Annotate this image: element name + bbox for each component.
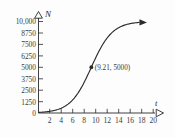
y-axis: N	[35, 9, 52, 113]
chart-canvas: N 10,000 8750 7500 6250 5000 3750 2500 1…	[0, 0, 175, 137]
y-axis-ticks	[39, 22, 44, 102]
x-tick-label: 6	[71, 116, 75, 125]
y-tick-label: 1250	[21, 98, 36, 107]
x-tick-label: 8	[82, 116, 86, 125]
x-tick-label: 16	[126, 116, 134, 125]
y-tick-label: 6250	[21, 52, 36, 61]
x-tick-label: 10	[92, 116, 100, 125]
curve-end-arrow-icon	[139, 19, 147, 25]
x-tick-label: 18	[138, 116, 146, 125]
x-axis: t	[39, 98, 164, 117]
x-tick-label: 12	[103, 116, 111, 125]
x-axis-ticks	[50, 109, 154, 113]
x-tick-label: 4	[59, 116, 63, 125]
y-axis-tick-labels: 10,000 8750 7500 6250 5000 3750 2500 125…	[16, 17, 37, 117]
y-tick-label: 8750	[21, 29, 36, 38]
y-axis-label: N	[44, 9, 52, 19]
y-tick-label: 7500	[21, 40, 36, 49]
y-tick-label: 5000	[21, 63, 36, 72]
inflection-point-label: (9.21, 5000)	[95, 64, 131, 72]
logistic-growth-chart: N 10,000 8750 7500 6250 5000 3750 2500 1…	[0, 0, 175, 137]
x-axis-tick-labels: 2 4 6 8 10 12 14 16 18 20	[48, 116, 157, 125]
y-tick-label-zero: 0	[32, 109, 36, 118]
x-tick-label: 20	[149, 116, 157, 125]
x-tick-label: 14	[115, 116, 123, 125]
logistic-curve-series	[39, 19, 147, 112]
y-tick-label: 3750	[21, 75, 36, 84]
x-tick-label: 2	[48, 116, 52, 125]
inflection-annotation: (9.21, 5000)	[89, 64, 130, 72]
y-tick-label: 10,000	[16, 17, 37, 26]
y-tick-label: 2500	[21, 86, 36, 95]
inflection-point-marker	[89, 65, 93, 69]
x-axis-arrowhead-icon	[156, 109, 163, 117]
x-axis-label: t	[155, 98, 158, 108]
